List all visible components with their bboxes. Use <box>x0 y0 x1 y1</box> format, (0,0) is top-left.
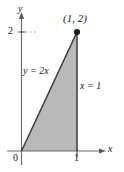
math-figure-triangular-region: (1, 2) y x 2 0 1 y = 2x x = 1 <box>0 0 124 172</box>
line-equation-label: y = 2x <box>23 66 49 76</box>
x-axis-label: x <box>108 144 112 154</box>
y-tick-label-2: 2 <box>8 26 13 36</box>
figure-canvas <box>0 0 124 172</box>
point-coordinate-label: (1, 2) <box>63 13 87 24</box>
vertical-line-equation-label: x = 1 <box>80 81 101 91</box>
origin-label: 0 <box>13 153 18 163</box>
point-1-2-marker <box>74 29 80 35</box>
y-axis-label: y <box>18 4 22 14</box>
x-tick-label-1: 1 <box>74 153 79 163</box>
x-axis-arrowhead <box>99 148 106 153</box>
